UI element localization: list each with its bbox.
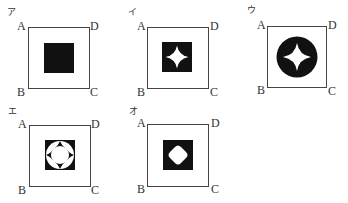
vertex-b-label: B — [18, 184, 26, 196]
vertex-a-label: A — [17, 20, 26, 32]
vertex-b-label: B — [137, 86, 145, 98]
vertex-a-label: A — [137, 117, 146, 129]
option-label: エ — [8, 107, 17, 116]
vertex-d-label: D — [210, 20, 219, 32]
option-label: ウ — [247, 6, 256, 15]
square-with-star-shape — [162, 42, 192, 72]
vertex-b-label: B — [137, 183, 145, 195]
vertex-c-label: C — [211, 183, 219, 195]
vertex-b-label: B — [257, 84, 265, 96]
vertex-d-label: D — [211, 117, 220, 129]
vertex-b-label: B — [17, 86, 25, 98]
inner-circle-icon — [51, 146, 69, 164]
vertex-c-label: C — [90, 86, 98, 98]
vertex-a-label: A — [18, 118, 27, 130]
circle-with-star-shape — [276, 36, 318, 78]
square-with-ring-shape — [45, 140, 75, 170]
vertex-d-label: D — [90, 20, 99, 32]
vertex-d-label: D — [328, 19, 337, 31]
vertex-a-label: A — [137, 20, 146, 32]
option-label: オ — [129, 107, 138, 116]
vertex-d-label: D — [91, 118, 100, 130]
option-label: ア — [7, 8, 16, 17]
vertex-c-label: C — [91, 184, 99, 196]
vertex-c-label: C — [328, 85, 336, 97]
vertex-c-label: C — [210, 86, 218, 98]
black-square-shape — [44, 43, 74, 73]
option-label: イ — [128, 8, 137, 17]
vertex-a-label: A — [257, 19, 266, 31]
square-with-diamond-shape — [163, 140, 193, 170]
